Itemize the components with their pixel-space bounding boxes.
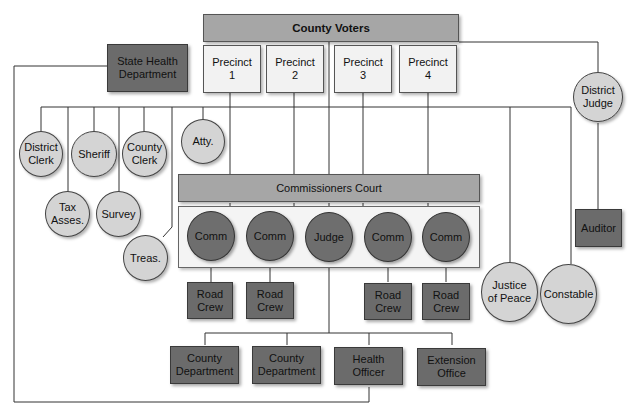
justice-of-peace-circle: Justice of Peace (481, 262, 538, 322)
commissioner-label: Comm (430, 231, 462, 244)
surveyor-circle: Survey (96, 191, 141, 237)
commissioner-label: Comm (254, 230, 286, 243)
health-officer-label: Health Officer (352, 353, 384, 379)
precinct-label: Precinct 4 (408, 56, 448, 82)
treasurer-circle: Treas. (123, 235, 168, 281)
road-crew-3-box: Road Crew (364, 283, 412, 320)
county-judge-circle: Judge (305, 212, 353, 262)
attorney-label: Atty. (192, 135, 213, 148)
precinct-4-box: Precinct 4 (399, 45, 457, 93)
county-voters-box: County Voters (203, 14, 459, 42)
extension-office-label: Extension Office (427, 354, 475, 380)
tax-assessor-circle: Tax Asses. (45, 191, 90, 237)
constable-label: Constable (544, 288, 594, 301)
sheriff-label: Sheriff (78, 148, 110, 161)
commissioner-label: Comm (372, 231, 404, 244)
county-department-1-box: County Department (170, 346, 239, 384)
tax-assessor-label: Tax Asses. (51, 201, 84, 227)
road-crew-1-box: Road Crew (187, 282, 233, 319)
commissioners-court-label: Commissioners Court (276, 182, 382, 195)
precinct-label: Precinct 2 (275, 56, 315, 82)
state-health-department-label: State Health Department (117, 55, 178, 81)
district-judge-label: District Judge (581, 84, 615, 110)
county-clerk-circle: County Clerk (122, 131, 167, 177)
state-health-department-box: State Health Department (107, 44, 188, 92)
justice-of-peace-label: Justice of Peace (488, 279, 531, 305)
auditor-box: Auditor (575, 209, 622, 247)
commissioner-2-circle: Comm (246, 211, 294, 261)
sheriff-circle: Sheriff (71, 131, 117, 177)
district-clerk-circle: District Clerk (19, 131, 63, 177)
road-crew-label: Road Crew (257, 288, 283, 314)
county-clerk-label: County Clerk (127, 141, 162, 167)
county-department-label: County Department (258, 352, 315, 378)
road-crew-label: Road Crew (433, 289, 459, 315)
commissioners-court-bar: Commissioners Court (178, 174, 480, 202)
road-crew-label: Road Crew (375, 289, 401, 315)
precinct-2-box: Precinct 2 (266, 45, 324, 93)
precinct-3-box: Precinct 3 (334, 45, 392, 93)
precinct-label: Precinct 1 (212, 56, 252, 82)
treasurer-label: Treas. (130, 252, 161, 265)
county-department-label: County Department (176, 352, 233, 378)
county-department-2-box: County Department (252, 346, 321, 384)
commissioner-1-circle: Comm (187, 211, 235, 261)
extension-office-box: Extension Office (417, 348, 486, 386)
commissioner-label: Comm (195, 230, 227, 243)
county-voters-label: County Voters (292, 22, 370, 35)
surveyor-label: Survey (101, 208, 135, 221)
health-officer-box: Health Officer (334, 347, 403, 385)
district-judge-circle: District Judge (573, 72, 623, 122)
road-crew-2-box: Road Crew (246, 282, 294, 319)
attorney-circle: Atty. (181, 119, 225, 164)
road-crew-label: Road Crew (197, 288, 223, 314)
precinct-label: Precinct 3 (343, 56, 383, 82)
road-crew-4-box: Road Crew (422, 283, 470, 320)
commissioner-4-circle: Comm (422, 212, 470, 262)
precinct-1-box: Precinct 1 (203, 45, 261, 93)
district-clerk-label: District Clerk (24, 141, 58, 167)
auditor-label: Auditor (581, 222, 616, 235)
county-judge-label: Judge (314, 231, 344, 244)
constable-circle: Constable (540, 264, 597, 324)
commissioner-3-circle: Comm (364, 212, 412, 262)
